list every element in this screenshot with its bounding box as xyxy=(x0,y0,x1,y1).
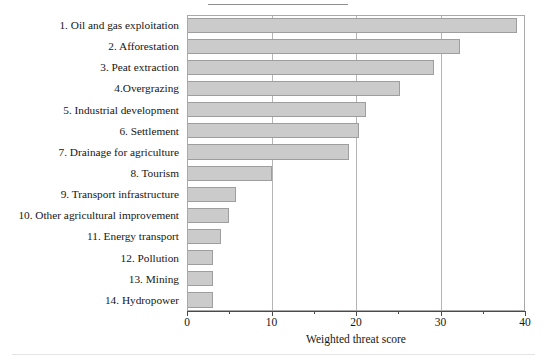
figure-container: 1. Oil and gas exploitation 2. Afforesta… xyxy=(0,0,547,359)
bar-row xyxy=(187,57,525,78)
category-label: 6. Settlement xyxy=(0,121,183,142)
category-label: 3. Peat extraction xyxy=(0,57,183,78)
x-tick-label: 40 xyxy=(519,316,531,328)
x-tick-label: 20 xyxy=(350,316,362,328)
bar[interactable] xyxy=(187,229,221,244)
bar-series xyxy=(187,15,525,311)
bar[interactable] xyxy=(187,166,272,181)
bar-row xyxy=(187,269,525,290)
bar-row xyxy=(187,15,525,36)
bar-row xyxy=(187,121,525,142)
bar-row xyxy=(187,184,525,205)
x-tick-label: 10 xyxy=(266,316,278,328)
category-label: 9. Transport infrastructure xyxy=(0,184,183,205)
bar-row xyxy=(187,142,525,163)
bar[interactable] xyxy=(187,292,213,307)
category-label: 2. Afforestation xyxy=(0,36,183,57)
category-label: 10. Other agricultural improvement xyxy=(0,205,183,226)
bar-row xyxy=(187,205,525,226)
bar[interactable] xyxy=(187,60,434,75)
x-tick-minor xyxy=(314,311,315,314)
x-axis-title: Weighted threat score xyxy=(187,333,525,345)
bar[interactable] xyxy=(187,144,349,159)
category-axis-labels: 1. Oil and gas exploitation 2. Afforesta… xyxy=(0,15,183,311)
category-label: 12. Pollution xyxy=(0,248,183,269)
category-label: 13. Mining xyxy=(0,269,183,290)
bar[interactable] xyxy=(187,18,517,33)
bar[interactable] xyxy=(187,123,359,138)
x-tick-label: 0 xyxy=(184,316,190,328)
bar-row xyxy=(187,100,525,121)
top-divider-rule xyxy=(208,4,348,5)
bar-row xyxy=(187,226,525,247)
category-label: 11. Energy transport xyxy=(0,226,183,247)
category-label: 14. Hydropower xyxy=(0,290,183,311)
bar[interactable] xyxy=(187,250,213,265)
category-label: 5. Industrial development xyxy=(0,100,183,121)
bar[interactable] xyxy=(187,208,229,223)
x-tick-minor xyxy=(398,311,399,314)
bottom-divider-rule xyxy=(12,354,535,355)
bar[interactable] xyxy=(187,81,400,96)
x-tick-minor xyxy=(483,311,484,314)
bar-row xyxy=(187,163,525,184)
bar[interactable] xyxy=(187,271,213,286)
bar-row xyxy=(187,36,525,57)
category-label: 7. Drainage for agriculture xyxy=(0,142,183,163)
category-label: 8. Tourism xyxy=(0,163,183,184)
x-tick-minor xyxy=(229,311,230,314)
x-axis-line xyxy=(187,311,525,312)
plot-area xyxy=(187,15,525,311)
bar[interactable] xyxy=(187,102,366,117)
x-tick-label: 30 xyxy=(435,316,447,328)
category-label: 4.Overgrazing xyxy=(0,78,183,99)
bar-row xyxy=(187,290,525,311)
bar-row xyxy=(187,78,525,99)
bar[interactable] xyxy=(187,187,236,202)
bar-row xyxy=(187,248,525,269)
category-label: 1. Oil and gas exploitation xyxy=(0,15,183,36)
x-axis-tick-labels: 010203040 xyxy=(187,316,525,330)
bar[interactable] xyxy=(187,39,460,54)
